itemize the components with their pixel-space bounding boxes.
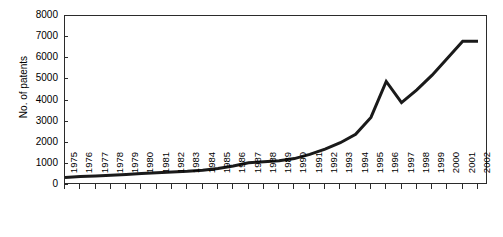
x-tick-label: 1991 <box>313 152 324 192</box>
x-tick-label: 1980 <box>144 152 155 192</box>
x-tick-mark <box>95 184 96 189</box>
y-tick-label: 2000 <box>14 137 58 147</box>
x-tick-mark <box>64 184 65 189</box>
x-tick-label: 1982 <box>175 152 186 192</box>
x-tick-label: 1995 <box>374 152 385 192</box>
x-tick-label: 2001 <box>466 152 477 192</box>
x-tick-mark <box>232 184 233 189</box>
x-tick-label: 1986 <box>236 152 247 192</box>
x-tick-mark <box>125 184 126 189</box>
y-tick-label: 8000 <box>14 10 58 20</box>
x-tick-label: 2000 <box>450 152 461 192</box>
x-tick-mark <box>217 184 218 189</box>
y-tick-label: 5000 <box>14 73 58 83</box>
x-tick-label: 1983 <box>190 152 201 192</box>
y-tick-label: 3000 <box>14 116 58 126</box>
y-tick-mark <box>64 142 68 143</box>
x-tick-mark <box>263 184 264 189</box>
x-tick-mark <box>202 184 203 189</box>
x-tick-mark <box>293 184 294 189</box>
y-tick-mark <box>64 163 68 164</box>
patents-line-chart: No. of patents 0100020003000400050006000… <box>0 0 503 237</box>
x-tick-mark <box>248 184 249 189</box>
x-tick-mark <box>462 184 463 189</box>
x-tick-label: 1998 <box>420 152 431 192</box>
x-tick-mark <box>416 184 417 189</box>
x-tick-label: 1990 <box>297 152 308 192</box>
x-tick-mark <box>477 184 478 189</box>
x-tick-mark <box>355 184 356 189</box>
x-tick-label: 1981 <box>160 152 171 192</box>
x-tick-mark <box>309 184 310 189</box>
x-tick-label: 1976 <box>83 152 94 192</box>
y-tick-label: 0 <box>14 179 58 189</box>
x-tick-label: 1975 <box>68 152 79 192</box>
x-tick-label: 1979 <box>129 152 140 192</box>
x-tick-label: 1984 <box>206 152 217 192</box>
x-tick-label: 1985 <box>221 152 232 192</box>
x-tick-mark <box>324 184 325 189</box>
x-tick-mark <box>401 184 402 189</box>
x-tick-label: 1997 <box>405 152 416 192</box>
x-tick-mark <box>278 184 279 189</box>
x-tick-mark <box>339 184 340 189</box>
x-tick-mark <box>431 184 432 189</box>
x-tick-mark <box>186 184 187 189</box>
x-tick-label: 1988 <box>267 152 278 192</box>
y-tick-mark <box>64 100 68 101</box>
x-tick-label: 1987 <box>252 152 263 192</box>
x-tick-label: 1989 <box>282 152 293 192</box>
x-tick-mark <box>156 184 157 189</box>
y-tick-label: 7000 <box>14 31 58 41</box>
x-tick-label: 1994 <box>359 152 370 192</box>
x-tick-mark <box>79 184 80 189</box>
x-tick-label: 1978 <box>114 152 125 192</box>
x-tick-label: 1977 <box>99 152 110 192</box>
x-tick-label: 1996 <box>389 152 400 192</box>
y-tick-label: 1000 <box>14 158 58 168</box>
y-tick-mark <box>64 36 68 37</box>
y-axis-tick-labels: 010002000300040005000600070008000 <box>0 0 58 237</box>
y-tick-mark <box>64 121 68 122</box>
y-tick-label: 6000 <box>14 52 58 62</box>
x-tick-label: 1999 <box>435 152 446 192</box>
y-tick-mark <box>64 15 68 16</box>
y-tick-mark <box>64 57 68 58</box>
y-tick-label: 4000 <box>14 95 58 105</box>
x-tick-mark <box>110 184 111 189</box>
y-tick-mark <box>64 78 68 79</box>
x-tick-label: 1993 <box>343 152 354 192</box>
x-tick-label: 1992 <box>328 152 339 192</box>
x-tick-label: 2002 <box>481 152 492 192</box>
x-tick-mark <box>446 184 447 189</box>
x-tick-mark <box>140 184 141 189</box>
x-tick-mark <box>385 184 386 189</box>
x-tick-mark <box>370 184 371 189</box>
x-tick-mark <box>171 184 172 189</box>
